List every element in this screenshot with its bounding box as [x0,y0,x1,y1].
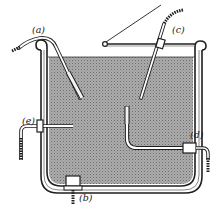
left-rim-lip [36,40,47,50]
label-a: (a) [32,24,45,35]
lid-open-line [106,5,161,42]
side-wall-fitting-e [37,120,43,132]
right-rim-lip [195,41,206,50]
label-b: (b) [79,192,93,203]
label-e: (e) [22,115,35,126]
label-d: (d) [190,129,204,140]
bottom-fitting-b [66,176,80,186]
side-wall-fitting-d [183,143,196,153]
hinge-circle [103,42,108,47]
label-c: (c) [172,24,185,35]
tank-probe-diagram: (a) (c) (e) (d) (b) [0,0,222,215]
